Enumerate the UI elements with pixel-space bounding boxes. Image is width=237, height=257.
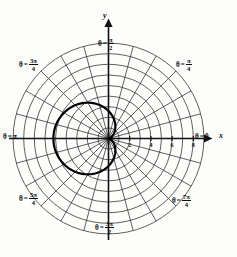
- x-tick-label-6: 6: [171, 142, 174, 148]
- y-axis-label: y: [103, 11, 107, 20]
- fraction-denominator: 4: [29, 199, 38, 206]
- angle-label-theta-pi-4: θ=π4: [176, 58, 192, 73]
- polar-graph-figure: θ=π2 θ=π4 θ=3π4 θ=π θ=0 θ=5π4 θ=7π4 θ=3π…: [0, 0, 237, 257]
- angle-label-theta-7pi-4: θ=7π4: [172, 194, 191, 209]
- fraction-denominator: 2: [108, 44, 114, 51]
- grid-spoke-195deg: [16, 139, 108, 164]
- grid-spoke-285deg: [109, 139, 134, 231]
- x-tick-label-4: 4: [149, 142, 152, 148]
- fraction-denominator: 4: [29, 65, 38, 72]
- angle-label-theta-3pi-4: θ=3π4: [19, 58, 38, 73]
- fraction-denominator: 2: [105, 228, 114, 235]
- fraction: π2: [108, 37, 114, 52]
- angle-label-theta-pi: θ=π: [3, 134, 17, 141]
- angle-label-theta-5pi-4: θ=5π4: [19, 192, 38, 207]
- fraction: 7π4: [182, 194, 191, 209]
- grid-spoke-345deg: [109, 139, 201, 164]
- x-axis-label: x: [219, 131, 223, 140]
- grid-spoke-255deg: [84, 139, 109, 231]
- angle-label-theta-3pi-2: θ=3π2: [95, 221, 114, 236]
- grid-spoke-105deg: [84, 46, 109, 138]
- grid-spoke-15deg: [109, 114, 201, 139]
- fraction: 3π2: [105, 221, 114, 236]
- x-tick-label-8: 8: [192, 142, 195, 148]
- angle-label-theta-0: θ=0: [195, 134, 208, 141]
- grid-spoke-315deg: [109, 139, 176, 206]
- angle-label-theta-pi-2: θ=π2: [98, 37, 114, 52]
- grid-spoke-165deg: [16, 114, 108, 139]
- angle-value: π: [13, 133, 17, 141]
- fraction-denominator: 4: [186, 65, 192, 72]
- grid-spoke-45deg: [109, 71, 176, 138]
- fraction: 3π4: [29, 58, 38, 73]
- fraction: 5π4: [29, 192, 38, 207]
- fraction-denominator: 4: [182, 201, 191, 208]
- fraction: π4: [186, 58, 192, 73]
- x-tick-label-2: 2: [128, 142, 131, 148]
- grid-spoke-75deg: [109, 46, 134, 138]
- angle-value: 0: [205, 133, 209, 141]
- polar-plot-canvas: [0, 0, 237, 257]
